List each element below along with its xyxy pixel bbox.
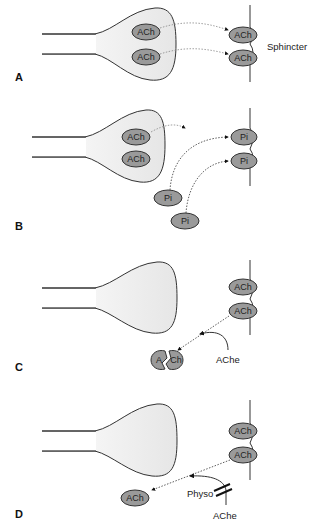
svg-text:ACh: ACh [234, 450, 252, 460]
svg-text:ACh: ACh [234, 30, 252, 40]
receptor-bound-molecule: ACh [229, 50, 257, 66]
receptor-bound-molecule: ACh [229, 27, 257, 43]
binding-arrow [170, 137, 228, 190]
vesicle: ACh [132, 49, 160, 65]
sphincter-label: Sphincter [267, 41, 307, 52]
svg-text:Pi: Pi [240, 156, 248, 166]
split-molecule-left: A [156, 355, 162, 365]
vesicle: ACh [122, 151, 150, 167]
svg-text:ACh: ACh [234, 53, 252, 63]
sphincter-membrane [250, 108, 253, 186]
receptor-bound-molecule: ACh [229, 447, 257, 463]
sphincter-membrane [250, 260, 253, 335]
receptor-bound-molecule: ACh [229, 279, 257, 295]
panel-letter-c: C [15, 361, 23, 373]
panel-d: ACh ACh ACh Physo AChe D [15, 400, 257, 521]
svg-text:ACh: ACh [137, 52, 155, 62]
split-molecule-right: Ch [170, 355, 182, 365]
svg-text:ACh: ACh [234, 306, 252, 316]
svg-text:ACh: ACh [234, 282, 252, 292]
panel-letter-d: D [15, 508, 23, 520]
inhibition-bars [214, 484, 232, 496]
svg-text:ACh: ACh [127, 132, 145, 142]
panel-a: ACh ACh ACh ACh Sphincter A [15, 5, 307, 83]
neuromuscular-diagram: ACh ACh ACh ACh Sphincter A ACh [0, 0, 315, 525]
enzyme-label: AChe [216, 354, 240, 365]
enzyme-label: AChe [213, 510, 237, 521]
receptor-bound-molecule: Pi [231, 129, 257, 145]
svg-text:ACh: ACh [137, 27, 155, 37]
inhibitor-label: Physo [187, 488, 213, 499]
free-molecule: Pi [171, 213, 199, 229]
panel-c: ACh ACh A Ch AChe C [15, 260, 257, 373]
panel-b: ACh ACh Pi Pi Pi Pi B [15, 108, 257, 232]
svg-text:Pi: Pi [164, 193, 172, 203]
svg-text:Pi: Pi [181, 216, 189, 226]
free-molecule: Pi [154, 190, 182, 206]
panel-letter-b: B [15, 220, 23, 232]
svg-text:ACh: ACh [126, 493, 144, 503]
svg-text:ACh: ACh [234, 426, 252, 436]
panel-letter-a: A [15, 71, 23, 83]
receptor-bound-molecule: ACh [229, 423, 257, 439]
sphincter-membrane [250, 5, 253, 82]
sphincter-membrane [250, 400, 253, 480]
split-molecule: A Ch [151, 350, 183, 369]
vesicle: ACh [122, 129, 150, 145]
enzyme-action-arrow [200, 332, 228, 350]
svg-text:Pi: Pi [240, 132, 248, 142]
binding-arrow [186, 161, 228, 213]
receptor-bound-molecule: ACh [229, 303, 257, 319]
receptor-bound-molecule: Pi [231, 153, 257, 169]
free-molecule: ACh [121, 490, 149, 506]
svg-text:ACh: ACh [127, 154, 145, 164]
vesicle: ACh [132, 24, 160, 40]
